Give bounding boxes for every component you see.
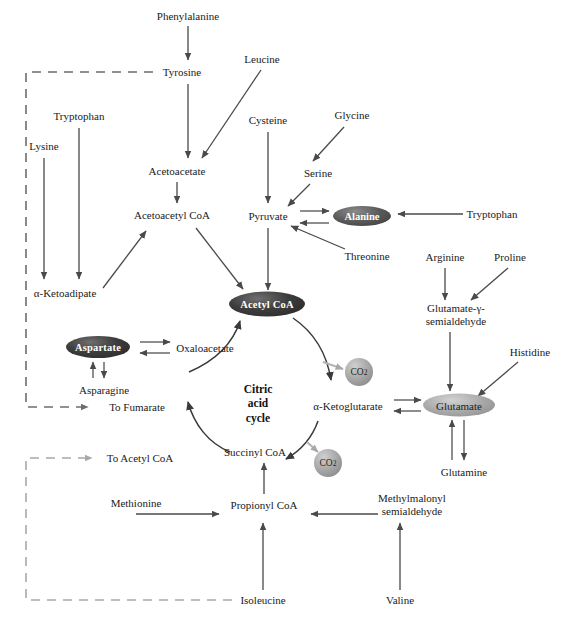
arrow-acetoacetylcoa-to-acetylcoa — [196, 228, 243, 289]
label-phenylalanine: Phenylalanine — [157, 10, 219, 23]
node-co2-upper[interactable]: CO2 — [345, 358, 373, 386]
mms-line-1: Methylmalonyl — [378, 492, 446, 504]
label-serine: Serine — [304, 167, 332, 180]
node-glutamate[interactable]: Glutamate — [423, 394, 495, 417]
label-cysteine: Cysteine — [249, 114, 288, 127]
arrow-pro-to-gsa — [471, 268, 508, 300]
label-tyrosine: Tyrosine — [163, 66, 201, 79]
mms-line-2: semialdehyde — [382, 505, 442, 517]
label-propionyl-coa: Propionyl CoA — [231, 499, 298, 512]
label-proline: Proline — [494, 251, 526, 264]
label-isoleucine: Isoleucine — [240, 594, 285, 607]
arrow-cycle-to-alphaketoglutarate — [293, 318, 331, 380]
label-histidine: Histidine — [510, 346, 550, 359]
label-tryptophan-left: Tryptophan — [54, 110, 105, 123]
arrow-his-to-glutamate — [478, 362, 518, 396]
label-alpha-ketoglutarate: α-Ketoglutarate — [313, 400, 382, 413]
gsa-line-1: Glutamate-γ- — [427, 302, 485, 314]
label-methylmalonyl-semialdehyde: Methylmalonyl semialdehyde — [366, 492, 458, 517]
co2-upper-text: CO — [351, 367, 364, 377]
dashed-isoleucine-to-acetylcoa — [26, 458, 232, 600]
label-acetoacetate: Acetoacetate — [149, 165, 206, 178]
gsa-line-2: semialdehyde — [426, 315, 486, 327]
co2-lower-text: CO — [320, 458, 333, 468]
arrow-gly-to-serine — [313, 127, 344, 161]
node-acetyl-coa[interactable]: Acetyl CoA — [229, 292, 305, 317]
label-lysine: Lysine — [29, 140, 58, 153]
node-co2-lower[interactable]: CO2 — [314, 449, 342, 477]
arrow-cycle-succinylcoa-to-oxaloacetate — [188, 402, 230, 452]
label-alpha-ketoadipate: α-Ketoadipate — [34, 287, 97, 300]
label-leucine: Leucine — [244, 53, 279, 66]
arrow-thr-to-pyruvate — [291, 226, 345, 249]
node-aspartate[interactable]: Aspartate — [66, 336, 130, 358]
cycle-label-line-2: acid — [244, 397, 273, 411]
dashed-path-to-acetyl-coa — [26, 458, 232, 600]
cycle-center-label: Citric acid cycle — [244, 382, 273, 425]
label-glutamate-semialdehyde: Glutamate-γ- semialdehyde — [410, 302, 502, 327]
label-acetoacetyl-coa: Acetoacetyl CoA — [134, 209, 210, 222]
label-arginine: Arginine — [426, 251, 465, 264]
label-glycine: Glycine — [335, 109, 370, 122]
label-methionine: Methionine — [111, 497, 162, 510]
co2-upper-subscript: 2 — [364, 368, 368, 377]
label-asparagine: Asparagine — [79, 384, 129, 397]
label-succinyl-coa: Succinyl CoA — [224, 446, 286, 459]
label-to-fumarate: To Fumarate — [109, 401, 165, 414]
label-tryptophan-right: Tryptophan — [467, 208, 518, 221]
reversible-arrow-pairs — [93, 211, 464, 460]
cycle-label-line-1: Citric — [244, 382, 273, 396]
label-threonine: Threonine — [344, 250, 389, 263]
label-pyruvate: Pyruvate — [248, 210, 287, 223]
label-to-acetyl-coa: To Acetyl CoA — [107, 452, 173, 465]
label-glutamine: Glutamine — [441, 466, 487, 479]
node-alanine[interactable]: Alanine — [333, 206, 391, 226]
arrow-co2-lower — [307, 442, 318, 452]
cycle-label-line-3: cycle — [244, 411, 273, 425]
label-oxaloacetate: Oxaloacetate — [176, 342, 233, 355]
pathway-diagram: Citric acid cycle Phenylalanine Tyrosine… — [0, 0, 572, 618]
co2-lower-subscript: 2 — [333, 459, 337, 468]
arrow-serine-to-pyruvate — [288, 184, 310, 206]
label-valine: Valine — [386, 594, 414, 607]
arrow-ketoadipate-to-acetoacetylcoa — [103, 231, 146, 288]
arrow-cycle-akg-to-succinylcoa — [286, 421, 318, 459]
arrow-co2-upper — [323, 362, 343, 369]
